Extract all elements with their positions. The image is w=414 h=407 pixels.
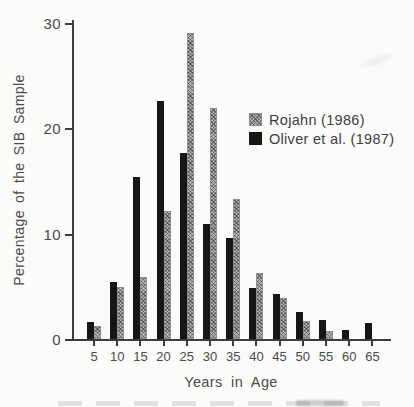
bar-rojahn-age-15 [140, 277, 147, 339]
x-tick-label: 50 [290, 349, 316, 364]
x-tick-label: 5 [81, 349, 107, 364]
legend-item-oliver: Oliver et al. (1987) [249, 129, 394, 148]
bar-oliver-age-25 [180, 153, 187, 339]
x-tick [302, 341, 304, 346]
legend-label-oliver: Oliver et al. (1987) [269, 131, 394, 147]
x-tick [116, 341, 118, 346]
y-tick-label: 10 [29, 226, 61, 243]
y-tick [65, 234, 72, 236]
x-tick [163, 341, 165, 346]
x-tick-label: 55 [313, 349, 339, 364]
bar-oliver-age-40 [249, 288, 256, 339]
x-tick [371, 341, 373, 346]
bar-rojahn-age-45 [280, 298, 287, 339]
x-tick-label: 30 [197, 349, 223, 364]
bar-oliver-age-50 [296, 312, 303, 339]
x-tick [186, 341, 188, 346]
bar-rojahn-age-40 [256, 273, 263, 339]
x-tick [93, 341, 95, 346]
x-tick [255, 341, 257, 346]
y-tick-label: 0 [29, 331, 61, 348]
x-tick-label: 20 [151, 349, 177, 364]
bar-rojahn-age-25 [187, 33, 194, 339]
bar-rojahn-age-5 [94, 326, 101, 339]
x-tick-label: 65 [359, 349, 385, 364]
x-tick [209, 341, 211, 346]
legend-label-rojahn: Rojahn (1986) [269, 112, 365, 128]
bar-oliver-age-10 [110, 282, 117, 339]
y-tick [65, 128, 72, 130]
bar-rojahn-age-55 [326, 331, 333, 339]
x-tick [232, 341, 234, 346]
plot-area: 01020305101520253035404550556065 [0, 0, 414, 407]
legend-item-rojahn: Rojahn (1986) [249, 110, 394, 129]
bar-oliver-age-35 [226, 238, 233, 339]
bar-oliver-age-45 [273, 294, 280, 339]
y-tick-label: 20 [29, 120, 61, 137]
bar-rojahn-age-50 [303, 321, 310, 339]
bar-oliver-age-60 [342, 330, 349, 339]
x-tick-label: 60 [336, 349, 362, 364]
bar-oliver-age-20 [157, 101, 164, 339]
x-tick [348, 341, 350, 346]
y-tick-label: 30 [29, 15, 61, 32]
x-tick-label: 15 [127, 349, 153, 364]
bar-rojahn-age-20 [164, 211, 171, 339]
x-tick-label: 25 [174, 349, 200, 364]
y-axis-line [72, 20, 74, 341]
y-tick [65, 23, 72, 25]
cropped-caption-fragment-dark [296, 400, 344, 406]
x-tick-label: 45 [267, 349, 293, 364]
rojahn-crosshatch-swatch-icon [249, 113, 262, 126]
x-tick [279, 341, 281, 346]
x-tick [325, 341, 327, 346]
bar-rojahn-age-10 [117, 287, 124, 339]
bar-oliver-age-5 [87, 322, 94, 339]
x-tick-label: 35 [220, 349, 246, 364]
oliver-black-swatch-icon [249, 132, 262, 145]
x-axis-title: Years in Age [151, 374, 311, 390]
y-tick [65, 339, 72, 341]
bar-oliver-age-30 [203, 224, 210, 339]
bar-oliver-age-15 [133, 177, 140, 339]
legend: Rojahn (1986) Oliver et al. (1987) [249, 110, 394, 148]
bar-rojahn-age-35 [233, 199, 240, 339]
bar-oliver-age-55 [319, 320, 326, 339]
bar-rojahn-age-30 [210, 108, 217, 339]
x-tick-label: 40 [243, 349, 269, 364]
x-tick [139, 341, 141, 346]
bar-chart-figure: Percentage of the SIB Sample 01020305101… [0, 0, 414, 407]
x-tick-label: 10 [104, 349, 130, 364]
bar-oliver-age-65 [365, 323, 372, 339]
